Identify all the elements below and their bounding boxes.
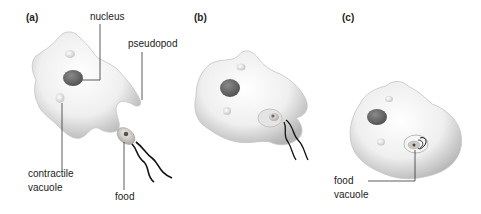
cell-body-c [350, 82, 462, 179]
contractile-vacuole-a [56, 93, 65, 103]
nucleus-b [220, 79, 240, 97]
panel-label-c: (c) [342, 12, 354, 23]
panel-label-b: (b) [194, 12, 207, 23]
amoeba-b [195, 51, 308, 160]
label-contractile-vacuole-line1: contractile [28, 168, 74, 180]
panel-label-a: (a) [26, 12, 38, 23]
vacuole-top-c [385, 96, 393, 102]
food-vacuole-c [404, 135, 428, 153]
label-contractile-vacuole-line2: vacuole [28, 182, 62, 194]
nucleus-a [63, 70, 83, 86]
vacuole-top-b [237, 64, 246, 71]
food-organism-a [114, 124, 172, 182]
label-food-vacuole-line2: vacuole [334, 189, 368, 201]
vacuole-top-a [65, 50, 75, 58]
amoeba-c [350, 82, 462, 179]
nucleus-c [367, 109, 387, 125]
label-food: food [115, 191, 134, 203]
cell-body-b [195, 51, 307, 145]
diagram-art [0, 0, 481, 214]
label-food-vacuole-line1: food [334, 175, 353, 187]
vacuole-c [377, 139, 385, 146]
label-pseudopod: pseudopod [128, 38, 178, 50]
cell-body-a [32, 32, 140, 138]
amoeba-a [32, 32, 172, 182]
label-nucleus: nucleus [90, 11, 124, 23]
vacuole-b [223, 107, 231, 115]
